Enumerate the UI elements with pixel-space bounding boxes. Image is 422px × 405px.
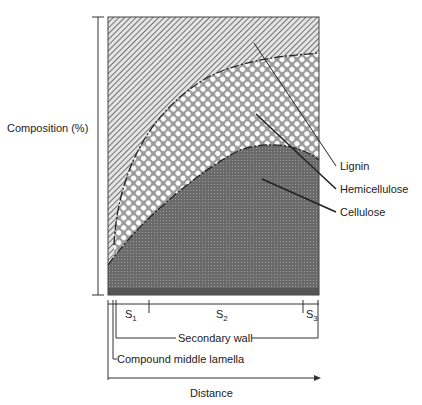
s2-label: S2: [216, 308, 228, 323]
middle-lamella-band: [108, 288, 319, 295]
s3-label: S3: [306, 308, 318, 323]
y-axis-label: Composition (%): [7, 122, 88, 134]
cell-wall-composition-diagram: Composition (%) Lignin Hemicellulose Cel…: [0, 0, 422, 405]
lignin-label: Lignin: [340, 160, 369, 172]
secondary-wall-label: Secondary wall: [178, 332, 253, 344]
compound-middle-lamella-label: Compound middle lamella: [117, 353, 245, 365]
arrow-right-icon: [314, 375, 321, 381]
s1-label: S1: [125, 308, 137, 323]
cellulose-label: Cellulose: [340, 206, 385, 218]
x-axis-label: Distance: [190, 387, 233, 399]
hemicellulose-label: Hemicellulose: [340, 183, 408, 195]
